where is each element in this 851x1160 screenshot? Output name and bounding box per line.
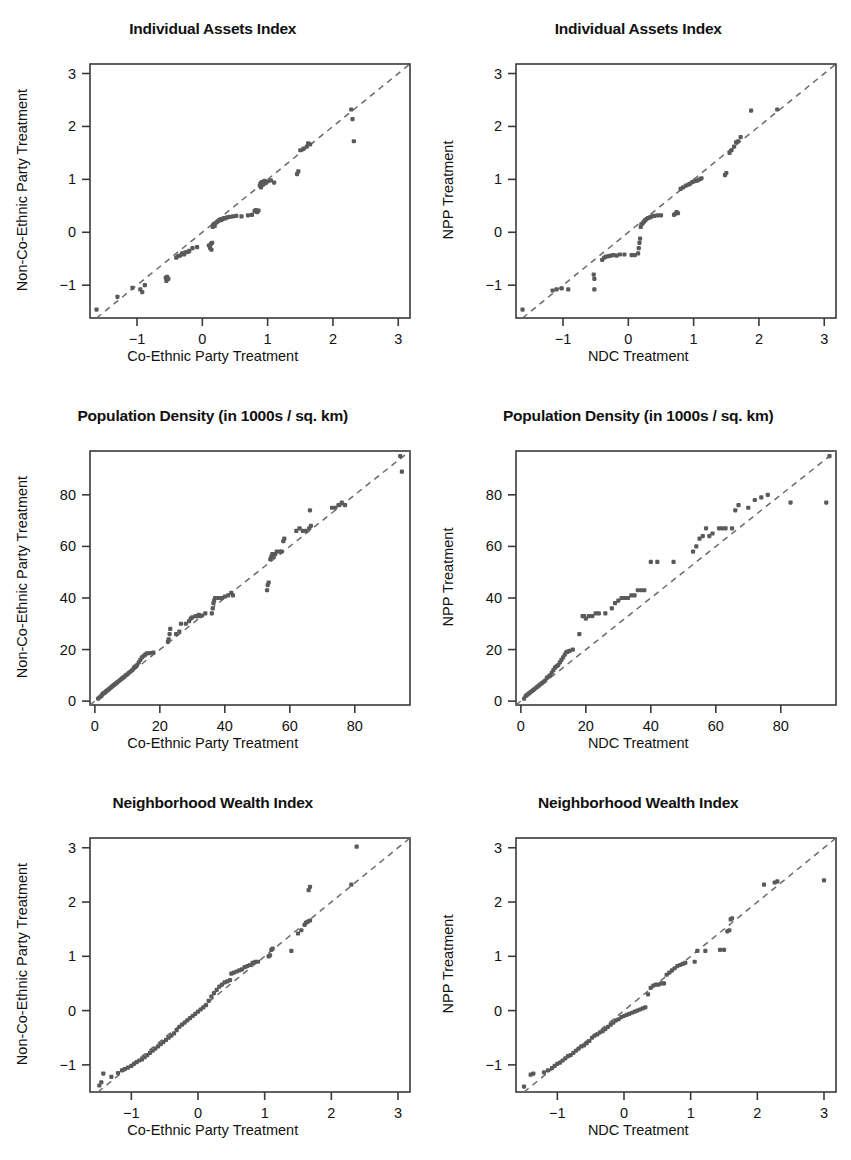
- reference-line-45deg: [98, 838, 410, 1092]
- data-point: [692, 960, 696, 964]
- y-tick-label: −1: [59, 277, 76, 293]
- x-tick-label: −1: [129, 331, 146, 347]
- y-tick-label: 80: [485, 487, 501, 503]
- data-point: [622, 252, 626, 256]
- data-point: [700, 534, 704, 538]
- data-point: [609, 606, 613, 610]
- data-point: [645, 992, 649, 996]
- data-point: [671, 560, 675, 564]
- plot-area: −10123−10123: [426, 774, 851, 1160]
- data-point: [603, 611, 607, 615]
- data-point-series: [97, 845, 359, 1088]
- data-point: [521, 1084, 525, 1088]
- scatter-panel: Individual Assets IndexNon-Co-Ethnic Par…: [0, 0, 426, 387]
- data-point: [727, 928, 731, 932]
- data-point: [775, 107, 779, 111]
- data-point: [210, 611, 214, 615]
- data-point: [632, 593, 636, 597]
- y-tick-label: 40: [60, 590, 76, 606]
- scatter-panel: Population Density (in 1000s / sq. km)No…: [0, 387, 426, 774]
- x-tick-label: 1: [689, 331, 697, 347]
- data-point: [592, 277, 596, 281]
- y-tick-label: 1: [493, 948, 501, 964]
- data-point: [746, 506, 750, 510]
- data-point: [99, 1080, 103, 1084]
- x-tick-label: 1: [686, 1105, 694, 1121]
- data-point: [765, 493, 769, 497]
- y-tick-label: 0: [493, 1003, 501, 1019]
- x-tick-label: 3: [394, 1105, 402, 1121]
- data-point: [350, 117, 354, 121]
- y-tick-label: 2: [68, 894, 76, 910]
- data-point: [717, 948, 721, 952]
- data-point: [690, 549, 694, 553]
- data-point: [343, 503, 347, 507]
- data-point: [695, 949, 699, 953]
- data-point: [355, 845, 359, 849]
- data-point: [179, 622, 183, 626]
- x-tick-label: 20: [577, 718, 593, 734]
- y-tick-label: 20: [60, 642, 76, 658]
- data-point: [246, 213, 250, 217]
- data-point: [520, 307, 524, 311]
- plot-area: 020406080020406080: [0, 387, 426, 774]
- data-point: [642, 588, 646, 592]
- data-point: [710, 531, 714, 535]
- data-point: [683, 961, 687, 965]
- data-point: [151, 651, 155, 655]
- data-point: [299, 928, 303, 932]
- data-point-series: [520, 107, 779, 311]
- plot-area: 020406080020406080: [426, 387, 851, 774]
- data-point: [296, 931, 300, 935]
- data-point: [729, 526, 733, 530]
- reference-line-45deg: [522, 64, 835, 318]
- reference-line-45deg: [516, 451, 836, 705]
- data-point: [190, 246, 194, 250]
- data-point: [168, 627, 172, 631]
- data-point: [643, 1005, 647, 1009]
- data-point: [296, 169, 300, 173]
- data-point: [250, 213, 254, 217]
- data-point: [228, 978, 232, 982]
- data-point: [398, 454, 402, 458]
- y-tick-label: 3: [493, 66, 501, 82]
- data-point: [761, 883, 765, 887]
- data-point: [94, 307, 98, 311]
- data-point: [308, 885, 312, 889]
- x-tick-label: 40: [642, 718, 658, 734]
- data-point: [636, 246, 640, 250]
- data-point: [759, 495, 763, 499]
- y-tick-label: 20: [485, 642, 501, 658]
- x-tick-label: 40: [217, 718, 233, 734]
- y-tick-label: −1: [59, 1057, 76, 1073]
- y-tick-label: 2: [68, 118, 76, 134]
- data-point: [729, 916, 733, 920]
- y-tick-label: 1: [68, 171, 76, 187]
- data-point: [732, 144, 736, 148]
- y-tick-label: 1: [68, 948, 76, 964]
- data-point: [729, 148, 733, 152]
- x-tick-label: 2: [754, 331, 762, 347]
- data-point: [204, 1003, 208, 1007]
- y-tick-label: 40: [485, 590, 501, 606]
- x-tick-label: 0: [91, 718, 99, 734]
- y-tick-label: −1: [485, 1057, 502, 1073]
- data-point: [231, 593, 235, 597]
- y-tick-label: −1: [485, 277, 502, 293]
- data-point: [637, 241, 641, 245]
- data-point: [308, 918, 312, 922]
- data-point: [655, 560, 659, 564]
- data-point: [675, 211, 679, 215]
- data-point: [736, 503, 740, 507]
- x-tick-label: 2: [327, 1105, 335, 1121]
- data-point: [559, 286, 563, 290]
- data-point: [239, 214, 243, 218]
- data-point: [309, 524, 313, 528]
- data-point: [265, 588, 269, 592]
- data-point: [721, 948, 725, 952]
- y-tick-label: 0: [68, 1003, 76, 1019]
- data-point: [282, 537, 286, 541]
- x-tick-label: 80: [772, 718, 788, 734]
- data-point: [541, 1070, 545, 1074]
- data-point: [827, 454, 831, 458]
